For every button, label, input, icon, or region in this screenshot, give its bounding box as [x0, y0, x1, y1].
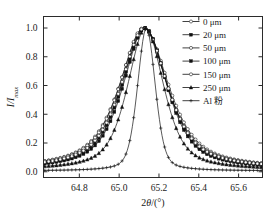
y-tick-label-2: 0.4 [26, 110, 38, 120]
marker-open-circle [179, 117, 182, 120]
marker-open-circle [175, 108, 178, 111]
marker-open-circle [97, 134, 100, 137]
marker-open-circle [93, 139, 96, 142]
marker-open-circle [132, 43, 135, 46]
marker-filled-square [121, 87, 124, 90]
marker-open-circle [209, 152, 212, 155]
marker-open-circle [198, 145, 201, 148]
marker-open-circle [78, 151, 81, 154]
marker-open-circle [190, 137, 193, 140]
marker-open-circle [236, 160, 239, 163]
marker-open-circle [252, 162, 255, 165]
marker-open-circle [121, 80, 124, 83]
marker-open-circle [82, 149, 85, 152]
marker-open-circle [186, 132, 189, 135]
marker-open-circle [240, 160, 243, 163]
marker-open-circle [59, 158, 62, 161]
marker-filled-square [190, 60, 193, 63]
marker-open-circle [128, 55, 131, 58]
marker-open-circle [101, 128, 104, 131]
marker-open-circle [63, 157, 66, 160]
marker-open-circle [202, 148, 205, 151]
y-tick-label-0: 0.0 [26, 167, 38, 177]
xrd-peak-profile-figure: 64.865.065.265.465.6 0.00.20.40.60.81.0 … [0, 0, 277, 221]
marker-open-circle [248, 161, 251, 164]
marker-filled-square [128, 61, 131, 64]
y-tick-label-1: 0.2 [26, 138, 38, 148]
marker-filled-square [97, 140, 100, 143]
marker-open-circle [70, 155, 73, 158]
marker-filled-square [190, 140, 193, 143]
marker-filled-square [86, 150, 89, 153]
marker-open-circle [136, 34, 139, 37]
marker-open-circle [229, 158, 232, 161]
marker-open-circle [221, 156, 224, 159]
marker-open-circle [55, 159, 58, 162]
marker-open-circle [182, 125, 185, 128]
marker-open-circle [159, 62, 162, 65]
marker-open-circle [167, 87, 170, 90]
legend-label-0: 0 μm [203, 17, 222, 27]
marker-filled-square [109, 120, 112, 123]
marker-open-circle [189, 46, 192, 49]
marker-open-circle [189, 20, 192, 23]
legend-label-4: 150 μm [203, 70, 231, 80]
legend-label-2: 50 μm [203, 43, 226, 53]
marker-open-circle [233, 159, 236, 162]
marker-filled-square [101, 134, 104, 137]
marker-open-circle [206, 150, 209, 153]
x-tick-label-0: 64.8 [71, 183, 88, 193]
legend-label-3: 100 μm [203, 56, 231, 66]
x-tick-label-3: 65.4 [190, 183, 207, 193]
x-tick-label-2: 65.2 [151, 183, 168, 193]
marker-filled-square [117, 100, 120, 103]
marker-open-circle [189, 73, 192, 76]
y-tick-label-4: 0.8 [26, 52, 38, 62]
marker-open-circle [124, 68, 127, 71]
marker-filled-square [94, 144, 97, 147]
legend-label-1: 20 μm [203, 30, 226, 40]
marker-open-circle [171, 98, 174, 101]
marker-open-circle [244, 161, 247, 164]
marker-open-circle [113, 103, 116, 106]
marker-filled-square [105, 128, 108, 131]
marker-open-circle [217, 155, 220, 158]
marker-open-circle [74, 153, 77, 156]
chart-canvas: 64.865.065.265.465.6 0.00.20.40.60.81.0 … [0, 0, 277, 221]
legend-label-6: Al 粉 [203, 95, 223, 106]
y-tick-label-3: 0.6 [26, 81, 38, 91]
marker-open-circle [47, 160, 50, 163]
marker-open-circle [51, 159, 54, 162]
marker-open-circle [194, 141, 197, 144]
marker-open-circle [225, 157, 228, 160]
marker-open-circle [213, 154, 216, 157]
marker-open-circle [117, 92, 120, 95]
legend-label-5: 250 μm [203, 83, 231, 93]
marker-open-circle [90, 143, 93, 146]
x-tick-label-1: 65.0 [111, 183, 128, 193]
marker-filled-square [78, 154, 81, 157]
marker-filled-square [113, 110, 116, 113]
marker-filled-square [186, 135, 189, 138]
marker-filled-square [190, 33, 193, 36]
marker-open-circle [105, 121, 108, 124]
marker-filled-square [124, 74, 127, 77]
marker-filled-square [90, 148, 93, 151]
marker-filled-square [82, 153, 85, 156]
marker-open-circle [109, 113, 112, 116]
marker-open-circle [66, 156, 69, 159]
marker-filled-square [194, 144, 197, 147]
marker-open-circle [163, 74, 166, 77]
marker-open-circle [86, 146, 89, 149]
y-tick-label-5: 1.0 [26, 23, 38, 33]
x-tick-label-4: 65.6 [230, 183, 247, 193]
x-axis-title: 2θ/(°) [141, 197, 164, 209]
